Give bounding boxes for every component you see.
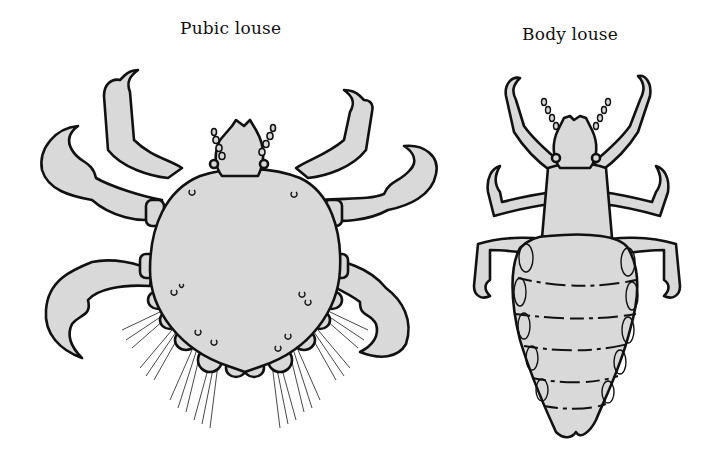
body-right-middle-leg bbox=[602, 166, 668, 216]
body-louse-abdomen bbox=[513, 235, 638, 438]
body-right-front-leg bbox=[594, 76, 650, 172]
body-right-eye bbox=[592, 154, 600, 162]
body-louse-illustration bbox=[474, 76, 680, 438]
pubic-right-front-leg bbox=[296, 90, 373, 178]
body-left-eye bbox=[552, 154, 560, 162]
pubic-louse-illustration bbox=[41, 70, 436, 428]
pubic-left-eye bbox=[210, 160, 218, 168]
pubic-left-front-leg bbox=[104, 70, 182, 178]
body-left-middle-leg bbox=[488, 166, 552, 216]
body-louse-thorax bbox=[542, 164, 612, 239]
pubic-right-eye bbox=[260, 160, 268, 168]
pubic-left-hind-leg bbox=[46, 260, 152, 358]
pubic-louse-head bbox=[216, 120, 263, 176]
louse-illustrations bbox=[0, 0, 705, 458]
